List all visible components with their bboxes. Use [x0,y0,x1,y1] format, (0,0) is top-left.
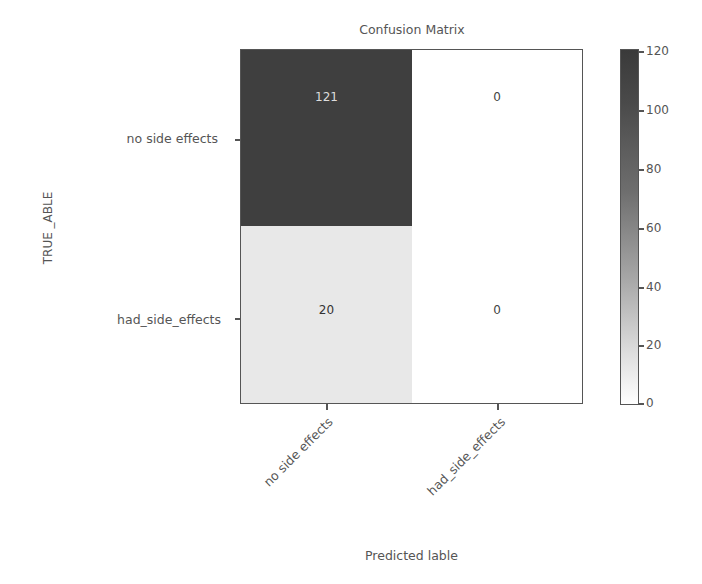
x-tick-0 [326,404,328,410]
x-tick-label-no-side-effects: no side effects [260,414,335,489]
y-tick-1 [235,318,240,320]
colorbar-label-0: 0 [646,396,654,410]
y-tick-label-had-side-effects: had_side_effects [21,312,221,327]
cell-value: 0 [493,90,501,104]
colorbar-label-80: 80 [646,162,661,176]
colorbar-tick-20 [639,345,644,347]
colorbar-label-40: 40 [646,280,661,294]
x-tick-label-had-side-effects: had_side_effects [424,414,508,498]
cell-value: 0 [493,303,501,317]
colorbar-label-60: 60 [646,221,661,235]
colorbar-label-100: 100 [646,103,669,117]
cell-true-had-pred-had: 0 [412,226,582,403]
x-tick-1 [497,404,499,410]
colorbar-tick-40 [639,287,644,289]
x-axis-title: Predicted lable [240,548,583,563]
colorbar [620,49,639,405]
colorbar-tick-80 [639,169,644,171]
cell-value: 20 [319,303,334,317]
cell-true-had-pred-no: 20 [241,226,412,403]
chart-title: Confusion Matrix [240,22,584,37]
colorbar-tick-100 [639,110,644,112]
cell-value: 121 [315,90,338,104]
colorbar-tick-60 [639,228,644,230]
y-axis-title: TRUE _ABLE [41,192,55,265]
colorbar-tick-0 [639,403,644,405]
y-tick-0 [235,139,240,141]
colorbar-tick-120 [639,51,644,53]
cell-true-no-pred-no: 121 [241,50,412,226]
y-tick-label-no-side-effects: no side effects [18,131,218,146]
cell-true-no-pred-had: 0 [412,50,582,226]
colorbar-label-120: 120 [646,44,669,58]
confusion-matrix: 121 0 20 0 [240,49,583,404]
colorbar-label-20: 20 [646,338,661,352]
